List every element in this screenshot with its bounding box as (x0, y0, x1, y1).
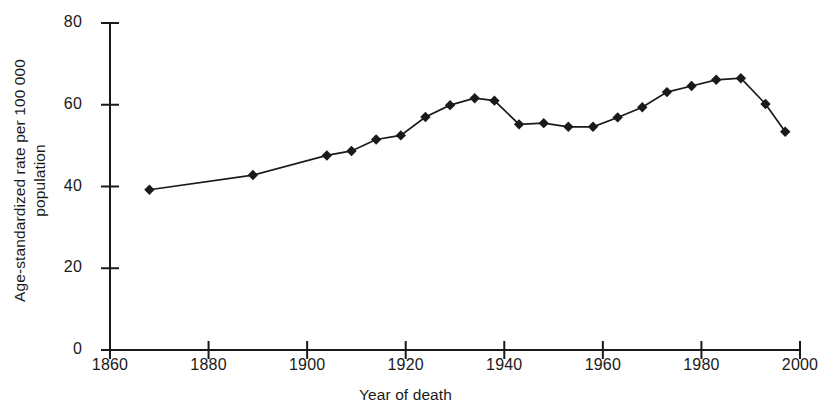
data-point-marker (470, 93, 480, 103)
data-point-marker (144, 185, 154, 195)
data-point-marker (445, 100, 455, 110)
data-point-marker (539, 118, 549, 128)
data-point-marker (563, 122, 573, 132)
data-point-marker (371, 134, 381, 144)
axes-group (110, 23, 800, 350)
data-point-marker (612, 112, 622, 122)
data-point-marker (322, 150, 332, 160)
data-point-marker (637, 102, 647, 112)
data-point-marker (662, 87, 672, 97)
data-line (149, 78, 785, 190)
x-axis-title: Year of death (0, 386, 811, 404)
data-point-marker (780, 127, 790, 137)
data-point-marker (686, 81, 696, 91)
data-point-marker (711, 75, 721, 85)
data-point-marker (248, 170, 258, 180)
data-point-marker (346, 146, 356, 156)
data-point-marker (588, 122, 598, 132)
